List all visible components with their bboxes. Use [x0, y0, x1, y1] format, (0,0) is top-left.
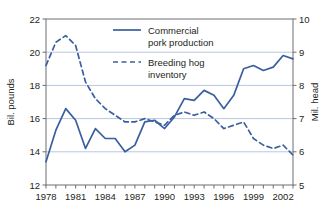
y-axis-right-title: Mil. head [309, 83, 320, 122]
x-axis-tick-labels: 197819811984198719901993199619992002 [35, 191, 293, 202]
y-axis-left-ticks [43, 19, 47, 185]
legend-label-commercial-line2: pork production [148, 37, 213, 48]
x-tick-label: 2002 [273, 191, 294, 202]
x-tick-label: 1996 [213, 191, 234, 202]
data-series-layer [46, 36, 293, 162]
y-tick-label-right: 7 [299, 113, 304, 124]
y-tick-label-right: 8 [299, 80, 304, 91]
legend-label-breeding-line2: inventory [148, 69, 187, 80]
y-axis-left-title: Bil. pounds [5, 78, 16, 125]
x-tick-label: 1987 [124, 191, 145, 202]
x-tick-label: 1984 [95, 191, 116, 202]
y-tick-label-right: 10 [299, 14, 310, 25]
x-tick-label: 1981 [65, 191, 86, 202]
dual-axis-line-chart: 197819811984198719901993199619992002 121… [0, 0, 330, 215]
y-tick-label-right: 9 [299, 47, 304, 58]
y-axis-right-ticks [293, 19, 297, 185]
y-tick-label-right: 6 [299, 146, 304, 157]
chart-container: 197819811984198719901993199619992002 121… [0, 0, 330, 215]
y-tick-label-left: 16 [29, 113, 40, 124]
x-tick-label: 1993 [184, 191, 205, 202]
x-axis-ticks [46, 185, 293, 189]
y-tick-label-left: 14 [29, 146, 40, 157]
x-tick-label: 1999 [243, 191, 264, 202]
y-tick-label-left: 20 [29, 47, 40, 58]
y-tick-label-right: 5 [299, 180, 304, 191]
x-tick-label: 1978 [35, 191, 56, 202]
legend-label-commercial-line1: Commercial [148, 25, 199, 36]
x-tick-label: 1990 [154, 191, 175, 202]
y-axis-right-tick-labels: 5678910 [299, 14, 310, 191]
y-tick-label-left: 12 [29, 180, 40, 191]
legend-label-breeding-line1: Breeding hog [148, 57, 205, 68]
series-line-breeding-hog-inventory [46, 36, 293, 156]
y-axis-left-tick-labels: 121416182022 [29, 14, 40, 191]
y-tick-label-left: 18 [29, 80, 40, 91]
y-tick-label-left: 22 [29, 14, 40, 25]
